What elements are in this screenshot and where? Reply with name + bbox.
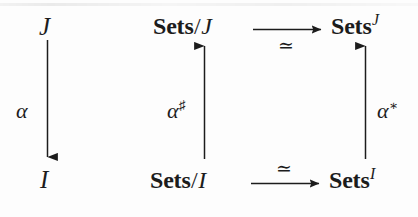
node-bottom-left-I: I <box>40 167 48 192</box>
label-alpha-star: α∗ <box>377 100 398 122</box>
sets-word: Sets <box>331 13 372 39</box>
node-bottom-right-presheaf-I: SetsI <box>329 168 375 192</box>
scan-artifact <box>0 3 418 6</box>
label-alpha-sharp-base: α <box>167 98 179 123</box>
slice-index-J: J <box>201 13 212 39</box>
exponent-J: J <box>372 11 379 28</box>
exponent-I: I <box>370 165 375 182</box>
label-alpha-sharp: α♯ <box>167 100 186 122</box>
node-top-mid-slice-J: Sets/J <box>153 14 212 38</box>
slice-index-I: I <box>198 167 206 193</box>
label-iso-top: ≃ <box>278 36 294 55</box>
diagram-canvas: J I α Sets/J SetsJ Sets/I SetsI α♯ α∗ ≃ … <box>0 0 418 217</box>
node-top-left-J: J <box>39 14 50 39</box>
label-iso-bottom: ≃ <box>276 159 292 178</box>
label-alpha-sharp-sup: ♯ <box>179 98 186 113</box>
node-top-right-presheaf-J: SetsJ <box>331 14 379 38</box>
label-alpha-base: α <box>16 98 28 123</box>
sets-word: Sets <box>329 167 370 193</box>
label-alpha-star-sup: ∗ <box>389 98 398 113</box>
sets-word: Sets <box>150 167 191 193</box>
node-bottom-mid-slice-I: Sets/I <box>150 168 206 192</box>
sets-word: Sets <box>153 13 194 39</box>
label-alpha: α <box>16 100 28 122</box>
label-alpha-star-base: α <box>377 98 389 123</box>
